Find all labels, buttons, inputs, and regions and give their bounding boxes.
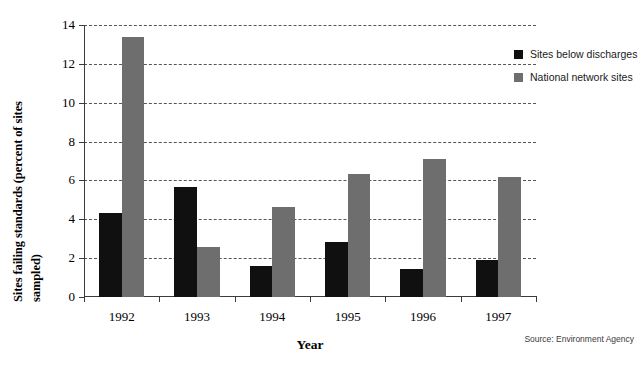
bar-1995-national-network	[348, 174, 371, 297]
y-axis-tick	[79, 219, 85, 220]
x-axis-tick-label-1997: 1997	[485, 309, 511, 325]
x-axis-tick	[536, 296, 537, 302]
x-axis-tick	[310, 296, 311, 302]
x-axis-tick-label-1993: 1993	[184, 309, 210, 325]
bar-1996-national-network	[423, 159, 446, 297]
y-axis-tick-label: 8	[69, 134, 76, 150]
bar-1992-national-network	[122, 37, 145, 297]
y-axis-tick	[79, 142, 85, 143]
legend-swatch-icon	[514, 73, 523, 82]
gridline	[84, 258, 536, 259]
y-axis-tick-label: 10	[62, 95, 75, 111]
x-axis-tick-label-1996: 1996	[410, 309, 436, 325]
legend-item-0: Sites below discharges	[514, 48, 642, 60]
x-axis-tick-label-1995: 1995	[335, 309, 361, 325]
y-axis-tick	[79, 103, 85, 104]
legend-swatch-icon	[514, 50, 523, 59]
x-axis-tick	[461, 296, 462, 302]
bar-1994-below-discharges	[250, 266, 273, 297]
y-axis-tick-label: 12	[62, 56, 75, 72]
x-axis-tick-label-1994: 1994	[259, 309, 285, 325]
gridline	[84, 64, 536, 65]
y-axis-title-line-1: Sites failing standards (percent of site…	[11, 101, 26, 302]
y-axis-tick-label: 14	[62, 17, 75, 33]
y-axis-tick-label: 6	[69, 172, 76, 188]
bar-1992-below-discharges	[99, 213, 122, 297]
plot-area: 02468101214199219931994199519961997	[84, 25, 536, 297]
y-axis-tick-label: 4	[69, 211, 76, 227]
source-note: Source: Environment Agency	[524, 334, 634, 344]
bar-1993-national-network	[197, 247, 220, 297]
y-axis-line	[84, 25, 85, 297]
bar-1994-national-network	[272, 207, 295, 297]
x-axis-tick	[159, 296, 160, 302]
y-axis-tick	[79, 258, 85, 259]
y-axis-tick	[79, 180, 85, 181]
bar-1995-below-discharges	[325, 242, 348, 297]
gridline	[84, 180, 536, 181]
x-axis-tick-label-1992: 1992	[109, 309, 135, 325]
gridline	[84, 25, 536, 26]
legend-item-1: National network sites	[514, 71, 642, 83]
x-axis-tick	[84, 296, 85, 302]
y-axis-tick-label: 0	[69, 289, 76, 305]
x-axis-tick	[235, 296, 236, 302]
y-axis-tick-label: 2	[69, 250, 76, 266]
bar-chart: Sites failing standards (percent of site…	[0, 0, 644, 367]
gridline	[84, 142, 536, 143]
legend: Sites below dischargesNational network s…	[514, 48, 642, 94]
y-axis-title-line-2: sampled)	[29, 254, 44, 302]
bar-1993-below-discharges	[174, 187, 197, 297]
y-axis-tick	[79, 64, 85, 65]
legend-label: Sites below discharges	[530, 48, 637, 60]
x-axis-title: Year	[84, 337, 536, 353]
bar-1996-below-discharges	[400, 269, 423, 297]
bar-1997-national-network	[498, 177, 521, 297]
gridline	[84, 219, 536, 220]
gridline	[84, 103, 536, 104]
y-axis-tick	[79, 25, 85, 26]
legend-label: National network sites	[530, 71, 633, 83]
x-axis-tick	[385, 296, 386, 302]
y-axis-title: Sites failing standards (percent of site…	[6, 0, 52, 310]
bar-1997-below-discharges	[476, 260, 499, 297]
